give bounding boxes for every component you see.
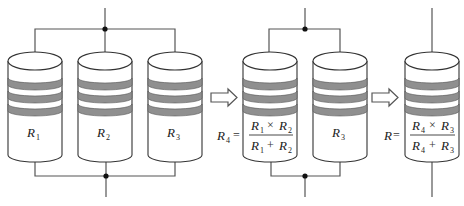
r3-symbol: R [166, 125, 175, 140]
r3-subscript: 3 [341, 133, 345, 142]
r3-symbol: R [331, 125, 340, 140]
den-r-symbol: R [411, 138, 420, 153]
num-r-symbol: R [411, 118, 420, 133]
num-r-subscript: 4 [421, 126, 425, 135]
resistor-r3: R 3 [148, 52, 202, 162]
multiply-operator: × [429, 118, 436, 132]
den-r-symbol: R [250, 138, 259, 153]
num-r-subscript: 3 [450, 126, 454, 135]
right-arrow-icon [372, 89, 398, 106]
resistor-r4-equivalent: R 1 × R 2 R 1 + R 2 [243, 52, 297, 162]
r2-symbol: R [96, 125, 105, 140]
plus-operator: + [429, 138, 436, 152]
resistor-r1: R 1 [8, 52, 62, 162]
num-r-subscript: 1 [260, 126, 264, 135]
den-r-subscript: 1 [260, 146, 264, 155]
den-r-subscript: 3 [450, 146, 454, 155]
stage-1-parallel-network: R 1 R 2 R 3 [8, 8, 202, 197]
top-bus-wire [269, 29, 340, 52]
den-r-subscript: 2 [288, 146, 292, 155]
r1-symbol: R [26, 125, 35, 140]
num-r-symbol: R [440, 118, 449, 133]
stage-3-single-equivalent: R 4 × R 3 R 4 + R 3 R = [383, 8, 459, 197]
resistor-reduction-diagram: R 1 R 2 R 3 R 1 × R 2 [0, 0, 464, 206]
resistor-r-total: R 4 × R 3 R 4 + R 3 [405, 52, 459, 162]
r4-lhs-symbol: R [216, 128, 225, 143]
r4-lhs-subscript: 4 [226, 136, 230, 145]
num-r-symbol: R [278, 118, 287, 133]
top-junction-node [102, 26, 107, 31]
r1-subscript: 1 [36, 133, 40, 142]
num-r-symbol: R [250, 118, 259, 133]
right-arrow-icon [211, 89, 237, 106]
resistor-r2: R 2 [78, 52, 132, 162]
equals-sign: = [233, 128, 240, 142]
bottom-junction-node [103, 173, 108, 178]
top-junction-node [302, 26, 307, 31]
num-r-subscript: 2 [288, 126, 292, 135]
r3-subscript: 3 [176, 133, 180, 142]
multiply-operator: × [267, 118, 274, 132]
den-r-symbol: R [278, 138, 287, 153]
resistor-r3: R 3 [313, 52, 367, 162]
den-r-subscript: 4 [421, 146, 425, 155]
den-r-symbol: R [440, 138, 449, 153]
plus-operator: + [267, 138, 274, 152]
bottom-junction-node [302, 173, 307, 178]
equals-sign: = [393, 128, 400, 142]
r-total-lhs-symbol: R [383, 128, 392, 143]
r2-subscript: 2 [106, 133, 110, 142]
stage-2-parallel-network: R 1 × R 2 R 1 + R 2 R 4 = R 3 [216, 8, 367, 197]
